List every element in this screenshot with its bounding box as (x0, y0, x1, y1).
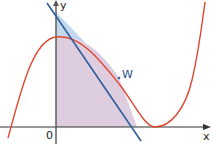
point-w-marker (118, 77, 121, 80)
y-axis-label: y (60, 0, 67, 12)
x-axis-label: x (203, 130, 210, 143)
origin-label: 0 (46, 129, 53, 142)
y-axis-arrow-icon (53, 0, 59, 6)
region-under-curve (56, 37, 137, 127)
point-w-label: W (122, 68, 133, 81)
function-graph: y x 0 W (0, 0, 212, 144)
